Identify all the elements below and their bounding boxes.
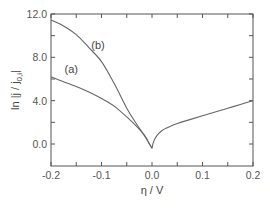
series-a-line xyxy=(51,77,152,149)
y-tick-label: 0.0 xyxy=(32,138,47,150)
y-tick-label: 12.0 xyxy=(27,8,48,20)
ticks: -0.2-0.10.00.10.20.04.08.012.0 xyxy=(27,8,261,181)
curves xyxy=(51,20,253,148)
y-axis-label-sub: 0,i xyxy=(15,73,24,82)
axes xyxy=(51,14,253,166)
x-tick-label: -0.2 xyxy=(42,169,60,181)
x-tick-label: 0.0 xyxy=(145,169,160,181)
series-b-label: (b) xyxy=(91,39,104,51)
y-axis-label-end: | xyxy=(9,70,21,73)
x-tick-label: 0.2 xyxy=(246,169,261,181)
x-axis-label: η / V xyxy=(141,184,164,196)
x-tick-label: 0.1 xyxy=(195,169,210,181)
x-tick-label: -0.1 xyxy=(92,169,110,181)
y-tick-label: 4.0 xyxy=(32,95,47,107)
labels: (a)(b) xyxy=(64,39,104,75)
anodic-branch-line xyxy=(152,101,253,149)
y-axis-label: ln |j / j0,i| xyxy=(9,70,24,110)
y-tick-label: 8.0 xyxy=(32,51,47,63)
chart: -0.2-0.10.00.10.20.04.08.012.0 (a)(b) η … xyxy=(0,0,270,211)
y-axis-label-main: ln |j / j xyxy=(9,81,21,110)
series-a-label: (a) xyxy=(64,63,77,75)
plot-frame xyxy=(51,14,253,166)
